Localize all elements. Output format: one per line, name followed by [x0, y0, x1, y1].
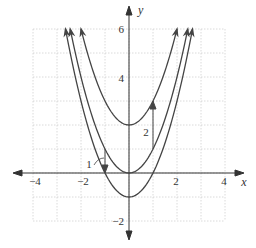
shift-down-label: 1	[86, 158, 92, 170]
x-tick-neg4: −4	[29, 175, 41, 187]
y-tick-neg2: −2	[112, 215, 124, 227]
x-tick-neg2: −2	[77, 175, 89, 187]
shift-up-label: 2	[143, 126, 149, 138]
x-axis-label: x	[240, 175, 247, 189]
parabola-graph: −4 −2 2 4 −2 4 6 x y 2 1	[0, 0, 256, 248]
y-axis-label: y	[137, 3, 144, 17]
y-axis-arrow-down-icon	[126, 231, 132, 240]
y-tick-6: 6	[119, 23, 125, 35]
axes	[13, 6, 244, 240]
x-tick-4: 4	[221, 175, 227, 187]
x-tick-2: 2	[173, 175, 179, 187]
x-axis-arrow-left-icon	[13, 170, 22, 176]
shift-down-leader	[94, 158, 104, 165]
y-tick-4: 4	[119, 72, 125, 84]
y-axis-arrow-up-icon	[126, 6, 132, 15]
